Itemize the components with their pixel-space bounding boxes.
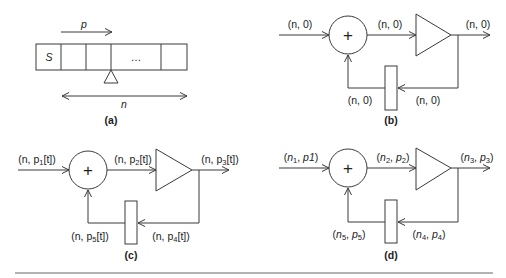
length-label: n [121, 98, 127, 110]
output-label: (n, p3[t]) [201, 153, 238, 167]
adder-out-label: (n2, p2) [377, 151, 410, 165]
delay-box [385, 66, 397, 110]
feedback-out-line [348, 188, 385, 222]
pointer-label: p [80, 18, 87, 30]
delay-box [125, 201, 137, 244]
feedback-out-label: (n5, p5) [333, 228, 366, 242]
amplifier-triangle-icon [416, 148, 451, 190]
feedback-out-line [88, 190, 125, 223]
panel-d-feedback-loop: (n1, p1) + (n2, p2) (n3, p3) (n5, p5) (n… [279, 148, 493, 261]
caption-b: (b) [384, 114, 397, 126]
input-label: (n1, p1) [284, 151, 319, 165]
output-label: (n3, p3) [461, 151, 494, 165]
figure-canvas: p S … n (a) (n, 0) + (n, 0) (n, 0) (n, 0… [0, 0, 506, 278]
adder-out-label: (n, 0) [378, 18, 403, 30]
plus-icon: + [83, 161, 93, 180]
input-label: (n, p1[t]) [18, 153, 55, 167]
adder-out-label: (n, p2[t]) [114, 153, 151, 167]
panel-a-turing-tape: p S … n (a) [36, 18, 187, 126]
amplifier-triangle-icon [416, 14, 451, 56]
caption-a: (a) [105, 114, 118, 126]
feedback-out-label: (n, 0) [348, 94, 373, 106]
delay-box [385, 200, 397, 243]
panel-b-feedback-loop: (n, 0) + (n, 0) (n, 0) (n, 0) (n, 0) (b) [279, 14, 490, 126]
tape-first-cell-symbol: S [45, 51, 52, 63]
plus-icon: + [343, 26, 353, 45]
tape-head-triangle-icon [104, 70, 118, 83]
tape: S … [36, 44, 187, 70]
feedback-in-label: (n4, p4) [413, 228, 446, 242]
input-label: (n, 0) [288, 18, 313, 30]
feedback-out-label: (n, p5[t]) [71, 230, 108, 244]
tape-ellipsis: … [131, 51, 142, 63]
feedback-in-label: (n, 0) [416, 94, 441, 106]
caption-d: (d) [384, 249, 397, 261]
amplifier-triangle-icon [156, 149, 192, 191]
output-label: (n, 0) [466, 18, 491, 30]
caption-c: (c) [125, 249, 138, 261]
panel-c-feedback-loop: (n, p1[t]) + (n, p2[t]) (n, p3[t]) (n, p… [18, 149, 239, 261]
feedback-in-label: (n, p4[t]) [152, 230, 189, 244]
plus-icon: + [343, 159, 353, 178]
feedback-out-line [348, 55, 385, 88]
